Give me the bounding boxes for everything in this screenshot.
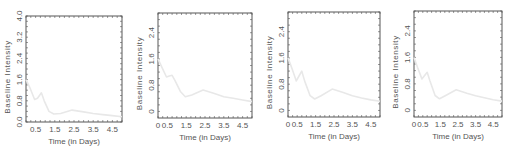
x-tick-label: 0 [156,121,161,130]
x-axis-label: Time (in Days) [179,133,231,142]
chart-4: 00.51.52.53.54.500.81.62.4Time (in Days)… [391,11,502,141]
y-tick-label: 1.6 [15,73,24,85]
x-axis-label: Time (in Days) [432,132,484,141]
x-tick-label: 2.5 [452,120,464,129]
y-axis-label: Baseline Intensity [391,35,400,109]
y-axis-label: Baseline Intensity [265,36,274,110]
y-tick-label: 0.8 [403,78,412,90]
plot-frame [26,16,122,122]
chart-panel: 0.51.52.53.54.50.00.81.62.43.24.0Time (i… [0,0,511,151]
plot-frame [158,13,252,118]
y-tick-label: 4.0 [15,10,24,22]
plot-frame [288,12,380,117]
chart-2: 00.51.52.53.54.500.81.62.4Time (in Days)… [135,13,252,142]
series-line [414,57,502,101]
y-tick-label: 1.6 [147,53,156,65]
x-tick-label: 4.5 [107,125,119,134]
y-tick-label: 2.4 [15,52,24,64]
x-tick-label: 1.5 [181,121,193,130]
x-tick-label: 0 [412,120,417,129]
y-tick-label: 2.4 [403,25,412,37]
x-tick-label: 2.5 [328,120,340,129]
x-tick-label: 3.5 [218,121,230,130]
x-tick-label: 2.5 [68,125,80,134]
y-tick-label: 0 [147,109,156,114]
x-tick-label: 3.5 [347,120,359,129]
x-axis-label: Time (in Days) [308,132,360,141]
x-tick-label: 0.5 [162,121,174,130]
x-tick-label: 4.5 [488,120,500,129]
series-line [26,80,122,117]
y-axis-label: Baseline Intensity [3,40,12,114]
x-tick-label: 0.5 [30,125,42,134]
chart-1: 0.51.52.53.54.50.00.81.62.43.24.0Time (i… [3,10,122,146]
y-tick-label: 0.8 [277,78,286,90]
plot-frame [414,11,502,117]
x-tick-label: 0.5 [417,120,429,129]
x-tick-label: 4.5 [237,121,249,130]
x-tick-label: 1.5 [310,120,322,129]
y-tick-label: 0.8 [147,79,156,91]
x-tick-label: 3.5 [88,125,100,134]
x-tick-label: 1.5 [49,125,61,134]
y-tick-label: 1.6 [277,52,286,64]
x-tick-label: 3.5 [470,120,482,129]
y-tick-label: 2.4 [277,26,286,38]
y-tick-label: 2.4 [147,27,156,39]
x-tick-label: 0 [286,120,291,129]
y-tick-label: 0.8 [15,95,24,107]
x-tick-label: 1.5 [435,120,447,129]
x-axis-label: Time (in Days) [48,137,100,146]
x-tick-label: 4.5 [365,120,377,129]
y-tick-label: 0.0 [15,116,24,128]
chart-3: 00.51.52.53.54.500.81.62.4Time (in Days)… [265,12,380,141]
x-tick-label: 0.5 [292,120,304,129]
y-tick-label: 0 [277,108,286,113]
y-tick-label: 0 [403,108,412,113]
x-tick-label: 2.5 [199,121,211,130]
y-axis-label: Baseline Intensity [135,37,144,111]
y-tick-label: 1.6 [403,51,412,63]
series-line [158,59,252,102]
series-line [288,58,380,101]
y-tick-label: 3.2 [15,31,24,43]
